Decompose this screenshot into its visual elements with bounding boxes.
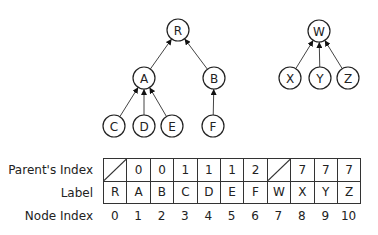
tree-node-D: D: [133, 115, 155, 137]
parent-cell: 2: [244, 159, 267, 182]
label-cell: R: [104, 181, 127, 204]
parent-pointer-forest: RABCDEFWXYZ: [0, 0, 378, 150]
parent-cell-null-root: [104, 159, 127, 182]
label-cell: A: [127, 181, 150, 204]
node-index-value: 10: [337, 209, 360, 225]
null-slash-icon: [104, 159, 126, 181]
node-index-value: 0: [103, 209, 126, 225]
node-index-value: 3: [173, 209, 196, 225]
label-cell: E: [220, 181, 243, 204]
parent-index-row: 001112777: [104, 159, 361, 182]
tree-node-B: B: [203, 67, 225, 89]
label-cell: W: [267, 181, 290, 204]
parent-cell: 7: [314, 159, 337, 182]
tree-node-E: E: [161, 115, 183, 137]
edge-F-to-B: [213, 89, 214, 115]
row-label-parent-index: Parent's Index: [8, 163, 93, 177]
edge-Y-to-W: [319, 42, 320, 67]
node-label: Z: [344, 72, 352, 86]
node-label: C: [110, 120, 118, 134]
tree-node-X: X: [279, 67, 301, 89]
node-label: X: [286, 72, 294, 86]
row-label-label: Label: [61, 186, 93, 200]
edge-C-to-A: [120, 87, 138, 116]
label-cell: D: [197, 181, 220, 204]
label-cell: Y: [314, 181, 337, 204]
label-cell: C: [174, 181, 197, 204]
node-index-value: 1: [126, 209, 149, 225]
node-label: F: [210, 120, 217, 134]
row-label-node-index: Node Index: [25, 209, 93, 223]
node-index-value: 2: [150, 209, 173, 225]
edge-B-to-R: [185, 39, 208, 69]
edge-Z-to-W: [325, 40, 342, 68]
node-label: E: [168, 120, 176, 134]
node-label: A: [140, 72, 149, 86]
parent-cell: 7: [291, 159, 314, 182]
node-index-value: 8: [290, 209, 313, 225]
parent-cell: 1: [197, 159, 220, 182]
node-index-value: 7: [267, 209, 290, 225]
node-label: B: [210, 72, 218, 86]
node-label: W: [313, 25, 325, 39]
tree-nodes: RABCDEFWXYZ: [103, 19, 359, 137]
tree-node-R: R: [167, 19, 189, 41]
node-label: Y: [315, 72, 324, 86]
parent-cell: 1: [174, 159, 197, 182]
tree-node-Y: Y: [309, 67, 331, 89]
label-cell: X: [291, 181, 314, 204]
node-label: D: [139, 120, 148, 134]
parent-cell: 7: [337, 159, 360, 182]
tree-node-A: A: [133, 67, 155, 89]
parent-cell: 0: [127, 159, 150, 182]
tree-node-C: C: [103, 115, 125, 137]
label-cell: B: [150, 181, 173, 204]
node-index-value: 5: [220, 209, 243, 225]
node-index-value: 4: [197, 209, 220, 225]
label-row: RABCDEFWXYZ: [104, 181, 361, 204]
null-slash-icon: [268, 159, 290, 181]
parent-cell: 1: [220, 159, 243, 182]
tree-node-Z: Z: [337, 67, 359, 89]
parent-array-table: 001112777 RABCDEFWXYZ: [103, 158, 361, 204]
edge-A-to-R: [150, 39, 171, 69]
parent-cell: 0: [150, 159, 173, 182]
label-cell: F: [244, 181, 267, 204]
tree-node-F: F: [202, 115, 224, 137]
parent-cell-null-root: [267, 159, 290, 182]
edge-E-to-A: [150, 88, 167, 117]
node-index-value: 9: [314, 209, 337, 225]
node-label: R: [174, 24, 182, 38]
label-cell: Z: [337, 181, 360, 204]
node-index-row: 012345678910: [103, 209, 360, 225]
tree-node-W: W: [308, 20, 330, 42]
node-index-value: 6: [243, 209, 266, 225]
edge-X-to-W: [296, 40, 313, 68]
